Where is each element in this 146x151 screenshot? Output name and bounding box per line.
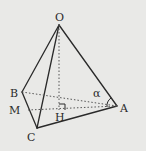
label-H: H [55, 111, 65, 124]
edge-OA [59, 25, 117, 106]
label-M: M [9, 104, 20, 117]
angle-alpha-arc [107, 98, 111, 107]
label-B: B [10, 87, 18, 100]
label-A: A [119, 102, 129, 115]
label-O: O [55, 11, 64, 24]
right-angle-mark [59, 104, 65, 110]
tetrahedron-diagram: O B M C H A α [0, 0, 146, 151]
label-C: C [27, 131, 35, 144]
edge-OB [22, 25, 59, 92]
label-alpha: α [93, 87, 101, 100]
edge-BA-hidden [22, 92, 117, 106]
